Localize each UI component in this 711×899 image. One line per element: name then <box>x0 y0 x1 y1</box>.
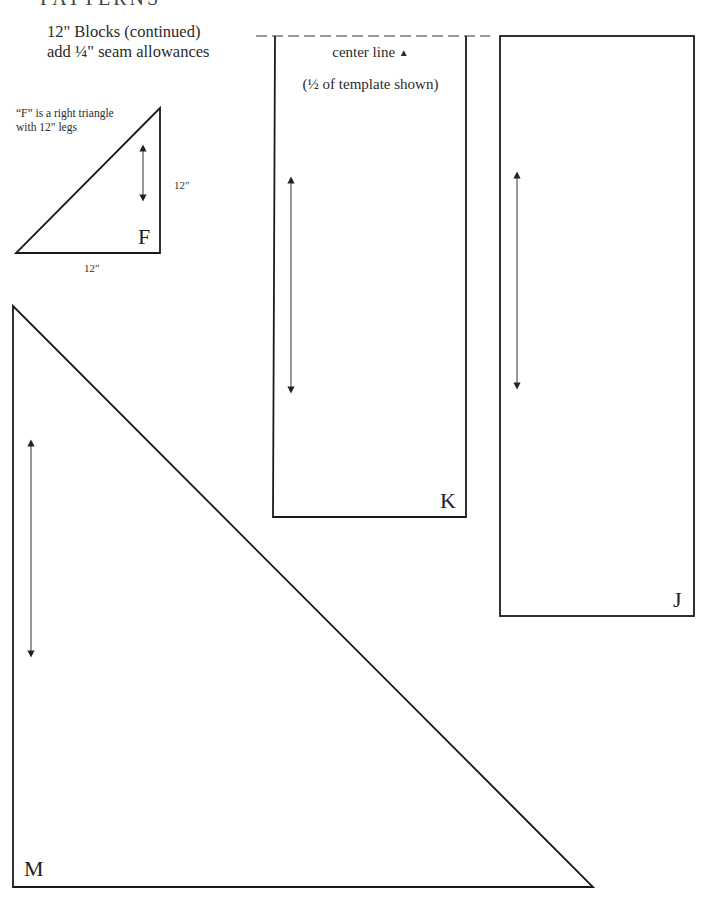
template-f-note-line-2: with 12" legs <box>16 120 77 134</box>
template-k-center-line-label: center line ▲ <box>275 44 466 61</box>
template-f-label: F <box>138 224 150 250</box>
template-f-horizontal-dimension: 12" <box>84 262 100 274</box>
template-m-label: M <box>24 856 44 882</box>
template-f-note-line-1: “F” is a right triangle <box>16 106 114 120</box>
template-f-vertical-dimension: 12" <box>174 179 190 191</box>
template-k-shape <box>273 36 466 517</box>
template-k-label: K <box>440 488 456 514</box>
center-marker-icon: ▲ <box>399 47 409 58</box>
template-j-shape <box>500 36 694 616</box>
template-k-half-note: (½ of template shown) <box>275 76 466 93</box>
template-m-shape <box>13 306 593 887</box>
template-j-label: J <box>673 587 682 613</box>
pattern-drawing <box>0 0 711 899</box>
center-line-text: center line <box>332 44 395 60</box>
